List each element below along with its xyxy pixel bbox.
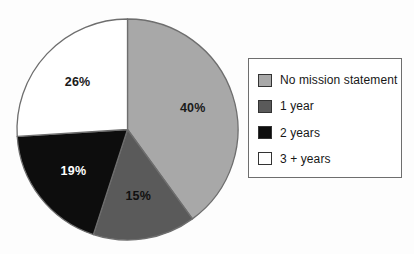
legend-item-label: 3 + years <box>280 152 331 166</box>
slice-label-3-plus-years: 26% <box>65 75 91 89</box>
slice-label-2-years: 19% <box>61 164 87 178</box>
legend-item-label: No mission statement <box>280 73 397 87</box>
legend-item-3-plus-years[interactable]: 3 + years <box>258 147 395 171</box>
legend-item-no-mission-statement[interactable]: No mission statement <box>258 68 395 92</box>
slice-label-1-year: 15% <box>125 189 151 203</box>
legend-item-list: No mission statement 1 year 2 years 3 + … <box>258 68 395 171</box>
legend-item-1-year[interactable]: 1 year <box>258 94 395 118</box>
legend-item-2-years[interactable]: 2 years <box>258 121 395 145</box>
legend-item-label: 1 year <box>280 99 314 113</box>
legend-swatch-icon <box>258 126 272 139</box>
legend-swatch-icon <box>258 100 272 113</box>
pie-slices <box>17 19 238 240</box>
legend-swatch-icon <box>258 152 272 165</box>
legend-swatch-icon <box>258 74 272 87</box>
slice-label-no-mission-statement: 40% <box>180 101 206 115</box>
legend-item-label: 2 years <box>280 126 320 140</box>
chart-legend: No mission statement 1 year 2 years 3 + … <box>248 58 402 178</box>
pie-chart-figure: 40% 15% 19% 26% No mission statement 1 y… <box>0 0 414 254</box>
